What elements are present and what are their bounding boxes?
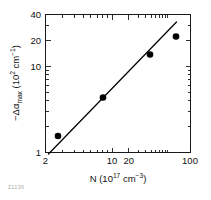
x-axis-title-tail: )	[143, 173, 146, 184]
x-axis-tick-labels: 2 10 20 100	[43, 155, 198, 166]
data-point	[55, 133, 62, 140]
data-point	[147, 51, 154, 58]
y-tick-label-10: 10	[30, 61, 41, 72]
x-axis-title-lead: N (10	[90, 173, 113, 184]
x-axis-title: N (1017 cm−3)	[90, 172, 147, 184]
y-axis-title: −Δαmax (102 cm−1)	[9, 45, 23, 121]
y-axis-title-tail: cm	[10, 56, 21, 71]
x-tick-label-20: 20	[124, 155, 135, 166]
y-axis-title-mid: (10	[10, 75, 21, 91]
y-axis-title-close: )	[10, 45, 21, 48]
y-axis-ticks-right	[186, 25, 191, 126]
x-axis-ticks-top	[62, 15, 168, 20]
svg-text:−Δαmax (102 cm−1): −Δαmax (102 cm−1)	[9, 45, 23, 121]
x-axis-ticks-bottom	[46, 148, 191, 153]
plot-frame	[46, 15, 191, 153]
log-log-scatter-chart: 2 10 20 100 1 10 20 40 N (1017 cm−3) −Δα…	[0, 0, 211, 200]
figure-id: Z1136	[8, 184, 24, 190]
y-tick-label-40: 40	[30, 9, 41, 20]
fit-line	[49, 22, 177, 154]
data-point	[100, 94, 107, 101]
y-axis-title-subscript: max	[16, 90, 23, 103]
x-tick-label-100: 100	[182, 155, 198, 166]
x-axis-title-mid: cm	[120, 173, 135, 184]
data-point	[173, 33, 180, 40]
y-tick-label-1: 1	[36, 147, 41, 158]
y-axis-tick-labels: 1 10 20 40	[30, 9, 41, 158]
svg-text:N (1017 cm−3): N (1017 cm−3)	[90, 172, 147, 184]
y-axis-ticks-left	[46, 15, 51, 153]
y-tick-label-20: 20	[30, 35, 41, 46]
y-axis-title-lead: −Δα	[10, 103, 21, 121]
x-tick-label-10: 10	[107, 155, 118, 166]
figure-container: 2 10 20 100 1 10 20 40 N (1017 cm−3) −Δα…	[0, 0, 211, 200]
data-points	[55, 33, 180, 139]
x-tick-label-2: 2	[43, 155, 48, 166]
figure-id-label: Z1136	[8, 184, 24, 190]
